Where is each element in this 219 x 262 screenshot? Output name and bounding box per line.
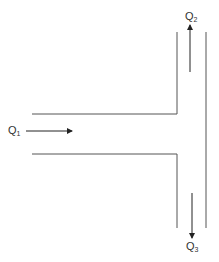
lower-pipe-wall [32,154,177,228]
upward-flow-label: Q2 [185,11,197,23]
downward-flow-label: Q3 [186,241,198,253]
upper-pipe-wall [32,32,177,114]
inlet-flow-label: Q1 [8,125,20,137]
t-junction-diagram [0,0,219,262]
